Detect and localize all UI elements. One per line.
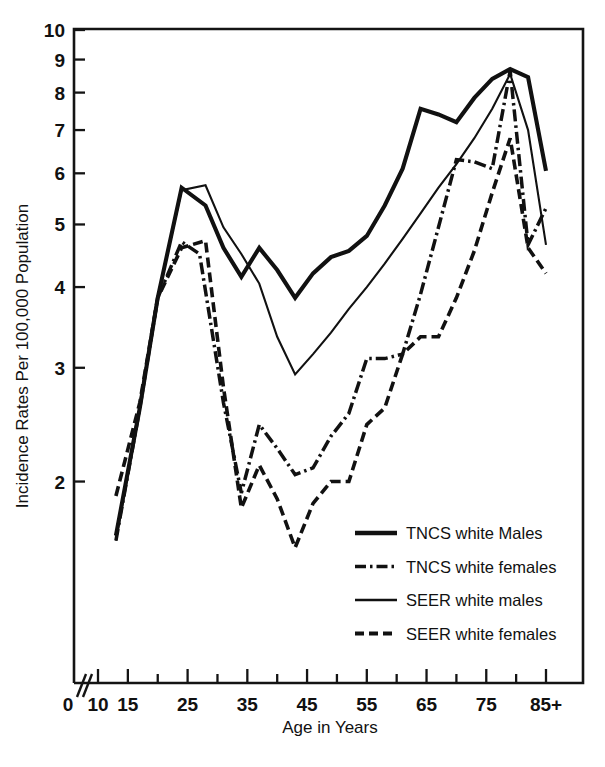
y-tick-label-9: 9: [54, 50, 65, 71]
y-tick-label-7: 7: [54, 120, 65, 141]
x-tick-label-85plus: 85+: [530, 694, 562, 715]
x-tick-label-15: 15: [117, 694, 139, 715]
y-tick-label-4: 4: [54, 277, 65, 298]
y-tick-label-6: 6: [54, 163, 65, 184]
chart-svg: 2345678910 0101525354555657585+ Incidenc…: [0, 0, 605, 767]
y-axis-title: Incidence Rates Per 100,000 Population: [13, 204, 32, 508]
x-axis-tick-labels: 0101525354555657585+: [63, 694, 562, 715]
legend-label-0: TNCS white Males: [406, 524, 543, 542]
x-tick-label-35: 35: [237, 694, 259, 715]
x-axis-title: Age in Years: [282, 718, 377, 737]
y-tick-label-8: 8: [54, 83, 65, 104]
legend-label-2: SEER white males: [406, 591, 543, 609]
y-tick-label-10: 10: [44, 20, 65, 41]
x-tick-label-25: 25: [177, 694, 199, 715]
x-tick-label-55: 55: [356, 694, 378, 715]
legend-label-1: TNCS white females: [406, 558, 556, 576]
x-tick-label-10: 10: [87, 694, 108, 715]
y-tick-label-2: 2: [54, 472, 65, 493]
x-tick-label-75: 75: [476, 694, 498, 715]
y-tick-label-3: 3: [54, 358, 65, 379]
legend-label-3: SEER white females: [406, 625, 556, 643]
incidence-rates-chart: 2345678910 0101525354555657585+ Incidenc…: [0, 0, 605, 767]
x-tick-label-0: 0: [63, 694, 74, 715]
x-tick-label-65: 65: [416, 694, 438, 715]
y-tick-label-5: 5: [54, 214, 65, 235]
x-tick-label-45: 45: [296, 694, 318, 715]
